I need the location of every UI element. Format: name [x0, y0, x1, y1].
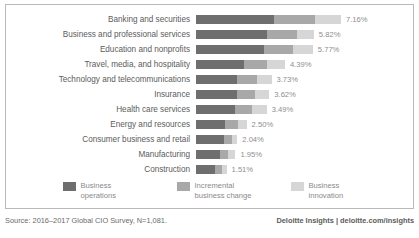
chart-row: Insurance3.62% — [6, 88, 413, 101]
category-label: Business and professional services — [6, 30, 196, 39]
bar-segment-incremental-business-change — [244, 60, 267, 69]
source-note: Source: 2016–2017 Global CIO Survey, N=1… — [5, 216, 167, 225]
stacked-bar[interactable] — [196, 105, 267, 114]
chart-card: Banking and securities7.16%Business and … — [5, 4, 414, 209]
bar-segment-incremental-business-change — [267, 30, 298, 39]
category-label: Health care services — [6, 105, 196, 114]
stacked-bar[interactable] — [196, 45, 313, 54]
bar-wrapper: 3.73% — [196, 73, 413, 86]
category-label: Construction — [6, 165, 196, 174]
legend-item[interactable]: Incremental business change — [177, 181, 257, 200]
bar-segment-incremental-business-change — [264, 45, 294, 54]
bar-value-label: 2.50% — [252, 120, 274, 129]
bar-wrapper: 3.62% — [196, 88, 413, 101]
bar-segment-business-operations — [196, 15, 274, 24]
chart-row: Manufacturing1.95% — [6, 148, 413, 161]
bar-value-label: 2.04% — [242, 135, 264, 144]
bar-segment-business-operations — [196, 30, 267, 39]
bar-value-label: 1.51% — [232, 165, 254, 174]
chart-row: Technology and telecommunications3.73% — [6, 73, 413, 86]
bar-segment-business-operations — [196, 90, 237, 99]
legend-swatch-icon — [291, 182, 304, 191]
bar-segment-business-operations — [196, 150, 220, 159]
chart-row: Consumer business and retail2.04% — [6, 133, 413, 146]
bar-wrapper: 4.39% — [196, 58, 413, 71]
stacked-bar[interactable] — [196, 135, 237, 144]
stacked-bar[interactable] — [196, 150, 235, 159]
chart-row: Energy and resources2.50% — [6, 118, 413, 131]
category-label: Education and nonprofits — [6, 45, 196, 54]
stacked-bar[interactable] — [196, 120, 247, 129]
bar-segment-incremental-business-change — [220, 150, 229, 159]
category-label: Technology and telecommunications — [6, 75, 196, 84]
bar-wrapper: 3.49% — [196, 103, 413, 116]
bar-value-label: 7.16% — [346, 15, 368, 24]
bar-value-label: 3.49% — [272, 105, 294, 114]
bar-segment-business-operations — [196, 135, 224, 144]
category-label: Banking and securities — [6, 15, 196, 24]
category-label: Travel, media, and hospitality — [6, 60, 196, 69]
stacked-bar[interactable] — [196, 30, 314, 39]
bar-segment-business-innovation — [293, 45, 312, 54]
bar-value-label: 3.62% — [274, 90, 296, 99]
stacked-bar-plot: Banking and securities7.16%Business and … — [6, 13, 413, 181]
chart-row: Travel, media, and hospitality4.39% — [6, 58, 413, 71]
stacked-bar[interactable] — [196, 165, 227, 174]
category-label: Manufacturing — [6, 150, 196, 159]
legend-label: Incremental business change — [195, 181, 257, 200]
bar-segment-business-innovation — [315, 15, 341, 24]
chart-legend: Business operationsIncremental business … — [6, 181, 413, 200]
bar-segment-business-operations — [196, 165, 215, 174]
bar-segment-incremental-business-change — [237, 90, 255, 99]
bar-segment-business-innovation — [232, 135, 237, 144]
bar-segment-business-innovation — [222, 165, 227, 174]
bar-value-label: 5.77% — [318, 45, 340, 54]
bar-wrapper: 5.82% — [196, 28, 413, 41]
bar-segment-business-innovation — [238, 120, 247, 129]
bar-wrapper: 5.77% — [196, 43, 413, 56]
chart-row: Construction1.51% — [6, 163, 413, 176]
bar-segment-business-operations — [196, 45, 264, 54]
legend-label: Business innovation — [309, 181, 371, 200]
bar-segment-business-innovation — [267, 60, 285, 69]
bar-wrapper: 2.04% — [196, 133, 413, 146]
category-label: Energy and resources — [6, 120, 196, 129]
bar-wrapper: 7.16% — [196, 13, 413, 26]
stacked-bar[interactable] — [196, 90, 269, 99]
legend-item[interactable]: Business innovation — [291, 181, 371, 200]
bar-value-label: 1.95% — [240, 150, 262, 159]
bar-segment-business-operations — [196, 120, 225, 129]
brand-credit: Deloitte Insights | deloitte.com/insight… — [276, 216, 414, 225]
bar-segment-business-innovation — [257, 75, 272, 84]
chart-row: Education and nonprofits5.77% — [6, 43, 413, 56]
stacked-bar[interactable] — [196, 60, 285, 69]
bar-segment-incremental-business-change — [224, 135, 232, 144]
bar-segment-incremental-business-change — [235, 105, 253, 114]
bar-segment-incremental-business-change — [237, 75, 257, 84]
bar-wrapper: 1.51% — [196, 163, 413, 176]
chart-row: Banking and securities7.16% — [6, 13, 413, 26]
bar-segment-business-innovation — [297, 30, 314, 39]
bar-wrapper: 2.50% — [196, 118, 413, 131]
chart-row: Business and professional services5.82% — [6, 28, 413, 41]
bar-value-label: 3.73% — [277, 75, 299, 84]
legend-swatch-icon — [177, 182, 190, 191]
bar-segment-business-operations — [196, 60, 244, 69]
bar-segment-business-innovation — [252, 105, 266, 114]
bar-segment-business-innovation — [255, 90, 269, 99]
chart-footer: Source: 2016–2017 Global CIO Survey, N=1… — [5, 216, 414, 225]
bar-segment-incremental-business-change — [215, 165, 222, 174]
bar-wrapper: 1.95% — [196, 148, 413, 161]
legend-swatch-icon — [63, 182, 76, 191]
bar-segment-incremental-business-change — [274, 15, 315, 24]
stacked-bar[interactable] — [196, 15, 341, 24]
category-label: Consumer business and retail — [6, 135, 196, 144]
bar-segment-business-operations — [196, 105, 235, 114]
bar-segment-incremental-business-change — [225, 120, 238, 129]
legend-item[interactable]: Business operations — [63, 181, 143, 200]
stacked-bar[interactable] — [196, 75, 272, 84]
bar-segment-business-innovation — [228, 150, 235, 159]
bar-value-label: 4.39% — [290, 60, 312, 69]
bar-value-label: 5.82% — [319, 30, 341, 39]
chart-row: Health care services3.49% — [6, 103, 413, 116]
